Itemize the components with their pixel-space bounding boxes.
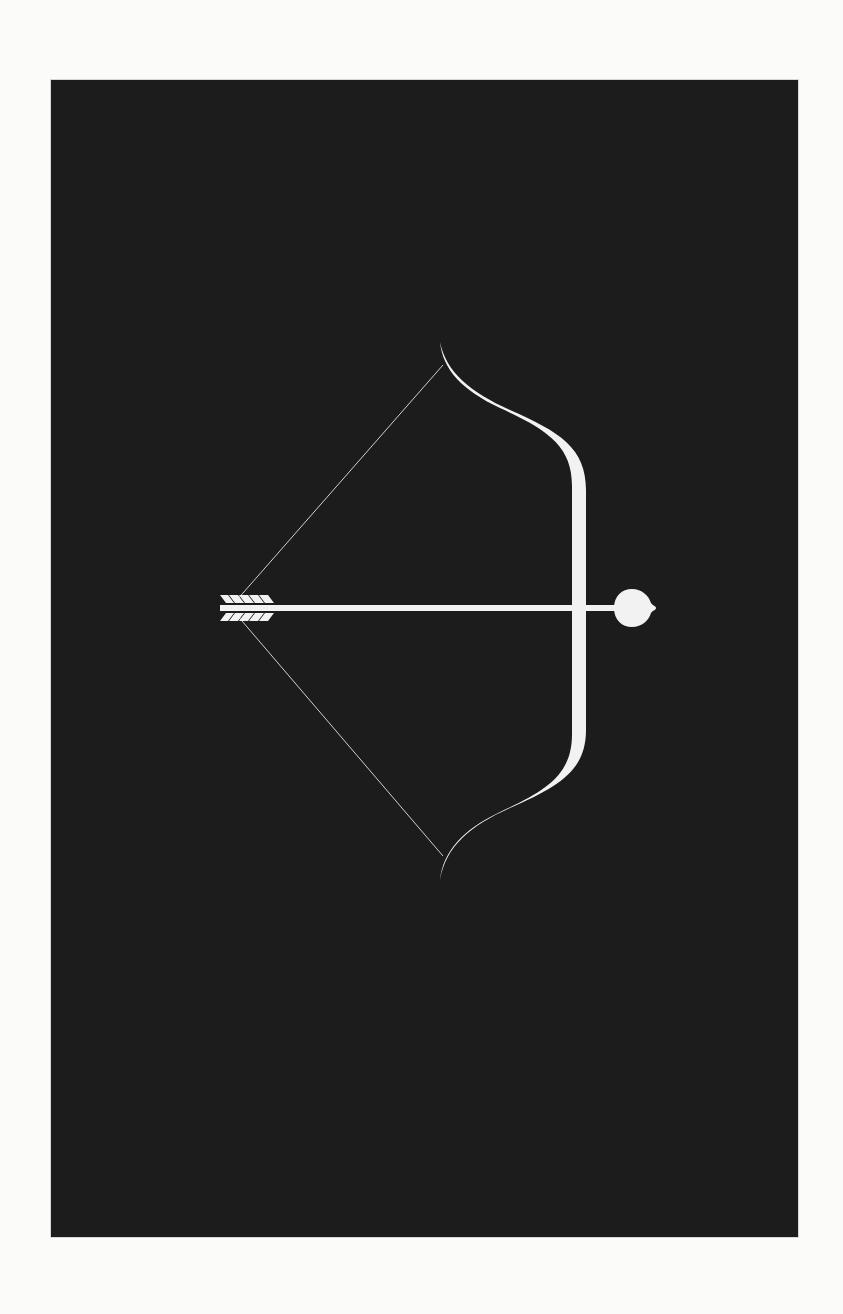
bow-and-arrow-artwork xyxy=(51,80,798,1237)
heart-icon xyxy=(614,589,656,627)
arrow-shaft xyxy=(238,605,616,611)
poster-panel xyxy=(51,80,798,1237)
